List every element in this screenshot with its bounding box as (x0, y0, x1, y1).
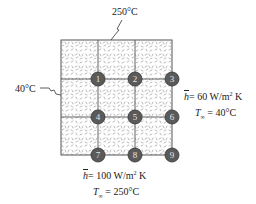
node-number: 4 (96, 112, 101, 122)
bottom-tinf-value: = 250°C (103, 186, 139, 197)
node-7: 7 (91, 148, 105, 162)
node-1: 1 (91, 72, 105, 86)
top-boundary-temp-label: 250°C (112, 7, 138, 17)
right-h-label: h= 60 W/m2 K (184, 92, 242, 102)
right-h-unit: K (232, 91, 242, 102)
bottom-h-value: = 100 W/m (88, 170, 133, 181)
node-9: 9 (165, 148, 179, 162)
node-number: 6 (170, 112, 175, 122)
bottom-tinf-label: T∞ = 250°C (93, 187, 139, 199)
left-boundary-temp-label: 40°C (15, 84, 36, 94)
left-leader-line (40, 88, 61, 95)
node-number: 7 (96, 150, 101, 160)
right-tinf-value: = 40°C (205, 107, 236, 118)
node-6: 6 (165, 110, 179, 124)
node-number: 9 (170, 150, 175, 160)
node-8: 8 (128, 148, 142, 162)
node-4: 4 (91, 110, 105, 124)
node-number: 2 (133, 74, 138, 84)
node-3: 3 (165, 72, 179, 86)
bottom-h-label: h= 100 W/m2 K (83, 171, 146, 181)
right-tinf-label: T∞ = 40°C (195, 108, 236, 120)
solid-body (61, 40, 172, 155)
node-number: 8 (133, 150, 138, 160)
node-number: 3 (170, 74, 175, 84)
top-leader-line (111, 20, 122, 40)
right-h-value: = 60 W/m (189, 91, 229, 102)
node-2: 2 (128, 72, 142, 86)
node-number: 1 (96, 74, 101, 84)
node-number: 5 (133, 112, 138, 122)
bottom-h-unit: K (136, 170, 146, 181)
node-5: 5 (128, 110, 142, 124)
